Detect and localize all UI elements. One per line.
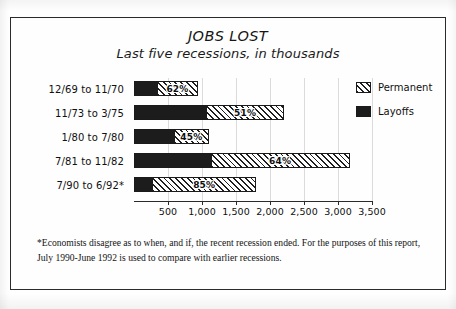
bar-value-label: 64% xyxy=(269,156,291,166)
legend-label-layoffs: Layoffs xyxy=(378,106,414,117)
bar-row: 1/80 to 7/8045% xyxy=(11,129,447,144)
x-axis-tick-label: 2,000 xyxy=(256,206,284,217)
legend-swatch-permanent-icon xyxy=(356,82,371,93)
bar-segment-layoffs xyxy=(135,178,153,191)
chart-footnote: *Economists disagree as to when, and if,… xyxy=(37,236,423,266)
bar-segment-permanent: 64% xyxy=(212,154,349,167)
bar-segment-layoffs xyxy=(135,154,212,167)
bar-value-label: 85% xyxy=(193,180,215,190)
x-axis-tick xyxy=(202,201,203,205)
bar-category-label: 1/80 to 7/80 xyxy=(11,131,124,142)
stacked-bar: 62% xyxy=(134,81,198,96)
x-axis-tick-label: 500 xyxy=(159,206,177,217)
bar-track: 85% xyxy=(134,177,447,192)
stacked-bar: 85% xyxy=(134,177,256,192)
legend-label-permanent: Permanent xyxy=(378,82,432,93)
bar-category-label: 7/90 to 6/92* xyxy=(11,179,124,190)
bar-value-label: 45% xyxy=(180,132,202,142)
bar-segment-layoffs xyxy=(135,82,158,95)
x-axis-tick xyxy=(270,201,271,205)
legend-swatch-layoffs-icon xyxy=(356,106,371,117)
x-axis-tick xyxy=(304,201,305,205)
x-axis: 5001,0001,5002,0002,5003,0003,500 xyxy=(134,201,447,231)
x-axis-tick xyxy=(168,201,169,205)
x-axis-tick xyxy=(236,201,237,205)
bar-segment-layoffs xyxy=(135,106,207,119)
x-axis-line xyxy=(134,201,372,202)
legend-item-permanent: Permanent xyxy=(356,82,432,93)
x-axis-tick-label: 3,500 xyxy=(358,206,386,217)
x-axis-tick-label: 3,000 xyxy=(324,206,352,217)
bar-category-label: 11/73 to 3/75 xyxy=(11,107,124,118)
bar-segment-permanent: 45% xyxy=(175,130,208,143)
bar-track: 45% xyxy=(134,129,447,144)
x-axis-tick-label: 1,000 xyxy=(188,206,216,217)
x-axis-tick xyxy=(372,201,373,205)
x-axis-tick-label: 2,500 xyxy=(290,206,318,217)
x-axis-tick-label: 1,500 xyxy=(222,206,250,217)
stacked-bar: 64% xyxy=(134,153,350,168)
bar-value-label: 51% xyxy=(234,108,256,118)
chart-figure-frame: JOBS LOST Last five recessions, in thous… xyxy=(10,17,446,290)
x-axis-tick xyxy=(338,201,339,205)
bar-row: 7/90 to 6/92*85% xyxy=(11,177,447,192)
bar-category-label: 7/81 to 11/82 xyxy=(11,155,124,166)
bar-segment-permanent: 85% xyxy=(153,178,255,191)
bar-category-label: 12/69 to 11/70 xyxy=(11,83,124,94)
stacked-bar: 51% xyxy=(134,105,284,120)
bar-value-label: 62% xyxy=(166,84,188,94)
stacked-bar: 45% xyxy=(134,129,209,144)
chart-legend: Permanent Layoffs xyxy=(356,82,432,130)
legend-item-layoffs: Layoffs xyxy=(356,106,432,117)
bar-segment-permanent: 62% xyxy=(158,82,196,95)
bar-segment-layoffs xyxy=(135,130,175,143)
bar-row: 7/81 to 11/8264% xyxy=(11,153,447,168)
bar-track: 64% xyxy=(134,153,447,168)
bar-segment-permanent: 51% xyxy=(207,106,282,119)
